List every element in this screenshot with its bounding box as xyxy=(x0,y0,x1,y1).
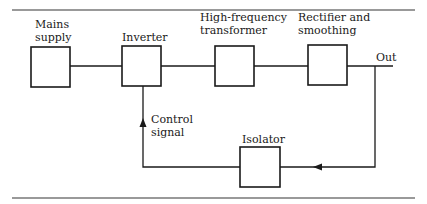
transformer-label-line2: transformer xyxy=(200,24,268,37)
control-signal-label-line2: signal xyxy=(151,126,185,139)
rectifier-label-line2: smoothing xyxy=(298,24,356,37)
isolator-label: Isolator xyxy=(242,133,286,146)
output-label: Out xyxy=(376,51,397,64)
block-inverter: Inverter xyxy=(122,31,168,86)
mains-label-line1: Mains xyxy=(35,18,69,31)
control-signal-label-line1: Control xyxy=(151,113,193,126)
inverter-label: Inverter xyxy=(122,31,168,44)
transformer-label-line1: High-frequency xyxy=(200,11,288,24)
arrow-up-icon xyxy=(140,118,147,127)
block-diagram: Mains supply Inverter High-frequency tra… xyxy=(0,0,427,204)
block-isolator: Isolator xyxy=(240,133,286,187)
rectifier-label-line1: Rectifier and xyxy=(298,11,370,24)
block-rectifier: Rectifier and smoothing xyxy=(298,11,370,85)
mains-label-line2: supply xyxy=(35,31,72,44)
arrow-left-icon xyxy=(313,164,322,171)
block-mains-supply: Mains supply xyxy=(31,18,72,87)
block-hf-transformer: High-frequency transformer xyxy=(200,11,288,86)
